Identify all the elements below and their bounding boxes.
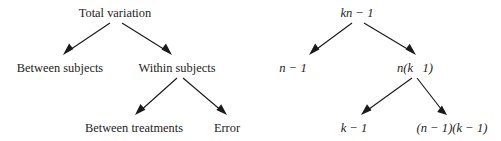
node-total-variation: Total variation bbox=[79, 6, 151, 20]
edge-total-to-within-subjects bbox=[122, 23, 172, 55]
edge-line bbox=[417, 78, 443, 112]
node-k-minus-1: k − 1 bbox=[341, 121, 368, 135]
edge-within-subjects-to-error bbox=[183, 78, 227, 115]
edge-line bbox=[122, 23, 168, 52]
node-n-minus-1: n − 1 bbox=[279, 61, 306, 75]
node-between-treatments: Between treatments bbox=[85, 121, 183, 135]
node-error: Error bbox=[214, 121, 241, 135]
edge-kn-to-n-minus-1 bbox=[309, 23, 352, 55]
edge-line bbox=[364, 23, 412, 52]
edge-line bbox=[68, 23, 111, 52]
edge-kn-to-n-k-minus-1 bbox=[364, 23, 416, 55]
edge-n-k-minus-1-to-interaction bbox=[417, 78, 447, 115]
arrow-head-icon bbox=[135, 104, 145, 115]
node-kn-minus-1: kn − 1 bbox=[341, 6, 374, 20]
variance-partition-figure: Total variation Between subjects Within … bbox=[0, 0, 501, 141]
tree-sources-of-variation: Total variation Between subjects Within … bbox=[17, 6, 241, 135]
edge-n-k-minus-1-to-k-minus-1 bbox=[361, 78, 412, 115]
node-between-subjects: Between subjects bbox=[17, 61, 104, 75]
arrow-head-icon bbox=[437, 106, 447, 116]
tree-degrees-of-freedom: kn − 1 n − 1 n(k 1) k − 1 (n − 1)(k − 1) bbox=[279, 6, 487, 135]
arrow-head-icon bbox=[162, 44, 173, 55]
edge-total-to-between-subjects bbox=[63, 23, 110, 55]
node-n-minus-1-times-k-minus-1: (n − 1)(k − 1) bbox=[417, 121, 488, 135]
edge-line bbox=[183, 78, 222, 112]
edge-within-subjects-to-between-treatments bbox=[135, 78, 177, 115]
arrow-head-icon bbox=[309, 44, 319, 55]
arrow-head-icon bbox=[406, 44, 417, 55]
node-within-subjects: Within subjects bbox=[139, 61, 216, 75]
arrow-head-icon bbox=[361, 104, 372, 115]
diagram-canvas: Total variation Between subjects Within … bbox=[0, 0, 501, 141]
edge-line bbox=[366, 78, 412, 112]
node-n-times-k-minus-1: n(k 1) bbox=[397, 61, 433, 75]
arrow-head-icon bbox=[63, 43, 73, 55]
edge-line bbox=[314, 23, 353, 52]
edge-line bbox=[140, 78, 177, 112]
arrow-head-icon bbox=[216, 104, 227, 115]
